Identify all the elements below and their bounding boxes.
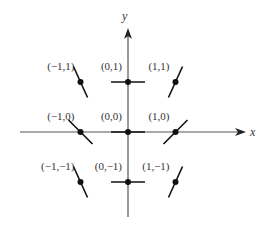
- point-dot: [125, 129, 131, 135]
- y-axis-label: y: [121, 9, 128, 23]
- point-label: (−1,1): [47, 60, 75, 73]
- point-dot: [173, 79, 179, 85]
- point-dot: [125, 79, 131, 85]
- point-labels: (−1,1)(0,1)(1,1)(−1,0)(0,0)(1,0)(−1,−1)(…: [41, 60, 170, 173]
- point-label: (1,1): [148, 60, 169, 73]
- point-dot: [173, 179, 179, 185]
- point-label: (−1,0): [47, 110, 75, 123]
- point-dot: [78, 79, 84, 85]
- point-label: (0,1): [101, 60, 122, 73]
- point-label: (0,−1): [95, 160, 123, 173]
- x-axis-label: x: [249, 125, 256, 139]
- point-label: (1,0): [148, 110, 169, 123]
- point-label: (−1,−1): [41, 160, 75, 173]
- point-dot: [125, 179, 131, 185]
- point-label: (0,0): [101, 110, 122, 123]
- point-dot: [78, 179, 84, 185]
- point-dot: [173, 129, 179, 135]
- point-label: (1,−1): [142, 160, 170, 173]
- slope-field-diagram: x y (−1,1)(0,1)(1,1)(−1,0)(0,0)(1,0)(−1,…: [0, 0, 266, 228]
- point-dot: [78, 129, 84, 135]
